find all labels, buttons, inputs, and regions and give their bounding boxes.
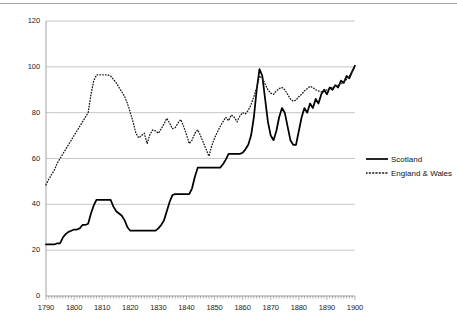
legend-item-england-wales: England & Wales <box>366 166 454 180</box>
legend-key-solid-line-icon <box>366 154 388 164</box>
legend-item-scotland: Scotland <box>366 152 454 166</box>
series-line-scotland <box>46 66 355 245</box>
legend-label-scotland: Scotland <box>391 155 422 164</box>
y-tick-label-60: 60 <box>16 154 40 163</box>
chart-figure: 020406080100120 179018001810182018301840… <box>0 0 457 328</box>
y-tick-label-0: 0 <box>16 291 40 300</box>
legend-label-england-wales: England & Wales <box>391 169 452 178</box>
legend-key-dotted-line-icon <box>366 168 388 178</box>
chart-legend: Scotland England & Wales <box>366 152 454 180</box>
y-tick-label-80: 80 <box>16 108 40 117</box>
y-tick-label-40: 40 <box>16 199 40 208</box>
y-tick-label-100: 100 <box>16 62 40 71</box>
y-tick-label-20: 20 <box>16 245 40 254</box>
y-tick-label-120: 120 <box>16 16 40 25</box>
x-tick-label-1900: 1900 <box>338 303 372 312</box>
